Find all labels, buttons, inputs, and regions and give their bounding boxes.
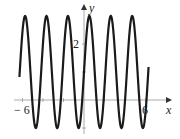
y-tick-label-2: 2 (73, 38, 79, 50)
x-tick-label-6: 6 (142, 104, 148, 116)
chart-plot (0, 0, 180, 139)
x-tick-label-neg6: − 6 (14, 104, 30, 116)
x-axis-label: x (166, 104, 171, 116)
y-axis-label: y (89, 2, 94, 14)
y-axis-arrow-icon (81, 4, 87, 10)
